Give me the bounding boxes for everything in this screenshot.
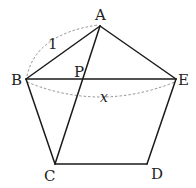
- diagonal-ac: [55, 26, 100, 164]
- label-e: E: [178, 71, 189, 89]
- label-p: P: [74, 63, 84, 81]
- edge-de: [147, 79, 176, 164]
- label-d: D: [151, 165, 163, 183]
- edge-ae: [100, 26, 176, 79]
- label-be-length: x: [100, 89, 108, 105]
- label-b: B: [11, 71, 22, 89]
- label-c: C: [44, 167, 55, 185]
- label-ab-length: 1: [48, 35, 58, 53]
- label-a: A: [94, 6, 106, 24]
- edge-bc: [26, 79, 55, 164]
- pentagon-diagram: A B E C D P 1 x: [0, 0, 196, 188]
- edge-ab: [26, 26, 100, 79]
- arc-ab-measure: [27, 25, 98, 76]
